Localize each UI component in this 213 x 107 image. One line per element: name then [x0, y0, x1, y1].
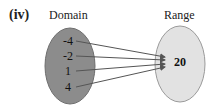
domain-value: 4	[65, 80, 71, 94]
domain-value: 1	[65, 64, 71, 78]
mapping-diagram: -4 -2 1 4 20	[0, 0, 213, 107]
domain-value: -2	[63, 49, 73, 63]
domain-value: -4	[63, 34, 73, 48]
range-value: 20	[174, 55, 186, 69]
